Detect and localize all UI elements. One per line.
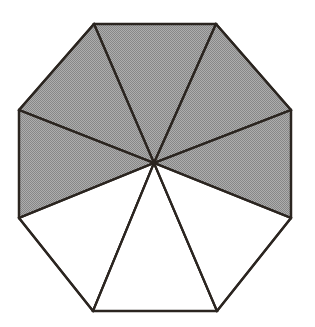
octagon-figure [0, 0, 315, 327]
octagon-diagram [0, 0, 315, 327]
